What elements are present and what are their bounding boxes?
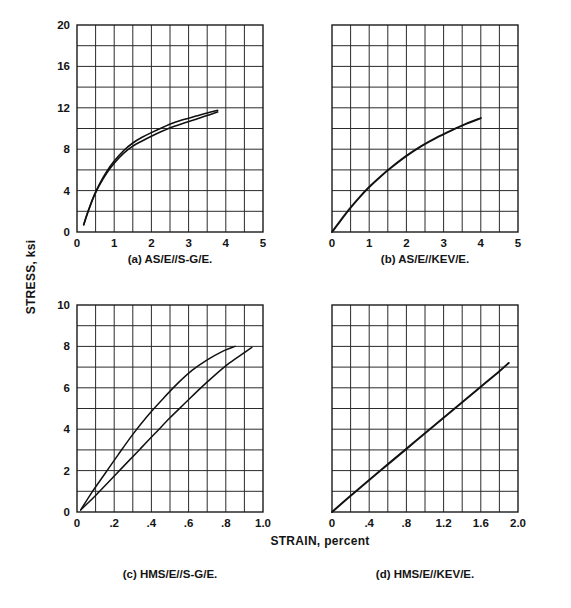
panel-caption: (d) HMS/E//KEV/E. <box>376 568 474 580</box>
y-tick-label: 4 <box>64 185 71 197</box>
y-tick-label: 8 <box>64 340 71 352</box>
x-tick-label: 4 <box>223 237 230 249</box>
y-tick-label: 0 <box>64 226 70 238</box>
x-tick-label: .2 <box>109 517 119 529</box>
y-tick-label: 10 <box>57 299 70 311</box>
x-tick-label: 0 <box>74 237 80 249</box>
x-tick-label: 0 <box>74 517 80 529</box>
y-tick-label: 8 <box>64 143 71 155</box>
x-tick-label: 0 <box>329 517 335 529</box>
y-axis-title: STRESS, ksi <box>24 240 38 315</box>
x-tick-label: .4 <box>147 517 157 529</box>
x-tick-label: 2.0 <box>510 517 526 529</box>
x-tick-label: 1 <box>111 237 118 249</box>
y-tick-label: 0 <box>64 506 70 518</box>
y-tick-label: 12 <box>57 102 70 114</box>
panel-caption: (c) HMS/E//S-G/E. <box>123 568 218 580</box>
x-tick-label: 0 <box>329 237 335 249</box>
y-tick-label: 4 <box>64 423 71 435</box>
stress-strain-figure: 012345048121620(a) AS/E//S-G/E. 012345(b… <box>0 0 571 608</box>
x-tick-label: 3 <box>185 237 191 249</box>
y-tick-label: 2 <box>64 465 70 477</box>
y-tick-label: 20 <box>57 19 70 31</box>
y-tick-label: 6 <box>64 382 70 394</box>
y-tick-label: 16 <box>57 60 70 72</box>
panel-caption: (b) AS/E//KEV/E. <box>381 253 469 265</box>
x-tick-label: .8 <box>221 517 231 529</box>
x-tick-label: .8 <box>402 517 412 529</box>
x-tick-label: 5 <box>260 237 267 249</box>
x-tick-label: .4 <box>364 517 374 529</box>
x-tick-label: 5 <box>515 237 522 249</box>
x-tick-label: 2 <box>403 237 409 249</box>
x-tick-label: 3 <box>440 237 446 249</box>
x-tick-label: 1 <box>366 237 373 249</box>
x-axis-title: STRAIN, percent <box>270 534 369 548</box>
x-tick-label: 2 <box>148 237 154 249</box>
x-tick-label: 4 <box>478 237 485 249</box>
panel-caption: (a) AS/E//S-G/E. <box>128 253 213 265</box>
x-tick-label: 1.6 <box>473 517 489 529</box>
x-tick-label: .6 <box>184 517 194 529</box>
x-tick-label: 1.0 <box>255 517 271 529</box>
x-tick-label: 1.2 <box>436 517 452 529</box>
